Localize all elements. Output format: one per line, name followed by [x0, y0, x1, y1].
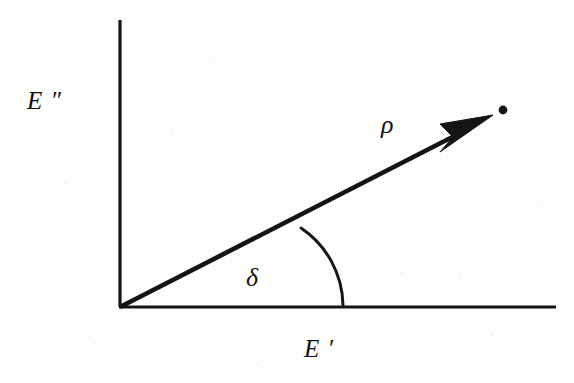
magnitude-label-rho: ρ	[381, 112, 393, 138]
loss-modulus-axis-label: E ″	[27, 88, 62, 113]
phase-angle-label-delta: δ	[246, 265, 258, 291]
modulus-phasor-diagram: E ″ E ′ ρ δ	[0, 0, 574, 383]
vector-endpoint-dot	[499, 106, 508, 115]
arrowhead	[440, 115, 493, 152]
phase-angle-arc	[301, 228, 343, 305]
diagram-canvas	[0, 0, 574, 383]
storage-modulus-axis-label: E ′	[304, 336, 334, 361]
complex-modulus-vector-shaft	[120, 128, 470, 307]
